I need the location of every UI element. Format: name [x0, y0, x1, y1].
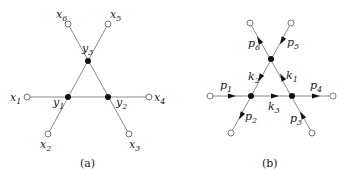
panel-b: p1 p2 p3 p4 p5 p6 k1 k2 k3 (b)	[207, 20, 336, 170]
vertex-x2	[45, 131, 51, 137]
label-x4: x4	[154, 91, 165, 106]
label-x3: x3	[129, 138, 140, 153]
vertex-p1-end	[207, 93, 213, 99]
label-p3: p3	[290, 112, 302, 127]
label-x2: x2	[40, 138, 51, 153]
label-k1: k1	[286, 69, 298, 84]
vertex-p4-end	[330, 93, 336, 99]
label-p2: p2	[245, 110, 257, 125]
vertex-x1	[24, 94, 30, 100]
vertex-x5	[105, 21, 111, 27]
label-k3: k3	[268, 100, 280, 115]
vertex-y3	[85, 58, 91, 64]
label-y2: y2	[115, 96, 127, 111]
vertex-y1	[65, 94, 71, 100]
label-y1: y1	[52, 96, 64, 111]
arrow-p1-icon	[228, 94, 236, 99]
diagram-canvas: x1 x2 x3 x4 x5 x6 y1 y2 y3 (a)	[0, 0, 346, 179]
vertex-x3	[126, 131, 132, 137]
vertex-x4	[146, 94, 152, 100]
label-p4: p4	[310, 79, 322, 94]
vertex-left	[248, 93, 254, 99]
label-p5: p5	[287, 36, 299, 51]
label-x1: x1	[10, 91, 21, 106]
label-y3: y3	[81, 42, 93, 57]
vertex-p5-end	[288, 20, 294, 26]
label-x6: x6	[56, 8, 67, 23]
arrow-k3-icon	[271, 94, 279, 99]
vertex-p6-end	[247, 20, 253, 26]
label-p1: p1	[220, 79, 232, 94]
caption-b: (b)	[262, 157, 278, 170]
caption-a: (a)	[80, 157, 95, 170]
vertex-top	[268, 56, 274, 62]
vertex-p3-end	[309, 130, 315, 136]
vertex-y2	[105, 94, 111, 100]
vertex-right	[289, 93, 295, 99]
panel-a: x1 x2 x3 x4 x5 x6 y1 y2 y3 (a)	[10, 8, 165, 170]
arrow-p4-icon	[312, 94, 320, 99]
label-k2: k2	[248, 70, 260, 85]
label-x5: x5	[110, 8, 121, 23]
vertex-p2-end	[228, 130, 234, 136]
